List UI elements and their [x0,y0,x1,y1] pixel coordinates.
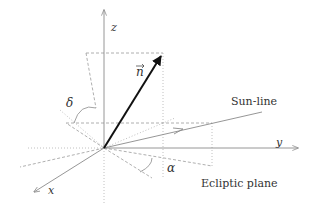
normal-vector-label: n [136,64,144,79]
dashed-construction-lines [20,53,212,178]
ecliptic-plane-label: Ecliptic plane [201,177,278,190]
normal-vector-n [104,56,161,148]
ecliptic-geometry-diagram: z y x n δ α Sun-line Ecliptic plane [0,0,310,210]
x-axis [34,148,104,192]
delta-arc [74,107,96,123]
alpha-label: α [167,161,175,175]
y-axis-label: y [275,136,283,149]
x-axis-label: x [48,184,55,197]
alpha-arc [140,158,152,172]
sun-line-label: Sun-line [231,95,277,108]
sun-line [104,112,262,148]
z-axis-label: z [110,21,117,34]
delta-label: δ [66,96,73,110]
